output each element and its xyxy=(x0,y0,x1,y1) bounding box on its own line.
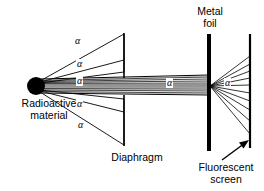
alpha-label-upper-inner: α xyxy=(76,59,83,69)
source-label: Radioactive material xyxy=(2,98,96,121)
source-label-line1: Radioactive xyxy=(2,98,96,110)
screen-leader-arrow xyxy=(222,140,249,160)
fluorescent-screen-label: Fluorescent screen xyxy=(188,162,264,185)
alpha-label-scattered: α xyxy=(224,78,231,88)
scattered-rays xyxy=(210,56,250,134)
metal-foil-label: Metal foil xyxy=(182,6,238,29)
alpha-label-beam-left: α xyxy=(76,76,83,86)
metal-foil-plate xyxy=(207,34,211,151)
alpha-label-beam-right: α xyxy=(166,78,173,88)
diagram-canvas: α α α α α α α Radioactive material Diaph… xyxy=(0,0,264,191)
metal-foil-label-line2: foil xyxy=(182,18,238,30)
diaphragm-label: Diaphragm xyxy=(98,152,176,164)
metal-foil-label-line1: Metal xyxy=(182,6,238,18)
radioactive-source xyxy=(27,77,45,95)
fluorescent-screen-label-line1: Fluorescent xyxy=(188,162,264,174)
source-label-line2: material xyxy=(2,110,96,122)
fluorescent-screen-label-line2: screen xyxy=(188,174,264,186)
alpha-label-lower-outer: α xyxy=(77,120,84,130)
alpha-label-upper-outer: α xyxy=(74,36,81,46)
